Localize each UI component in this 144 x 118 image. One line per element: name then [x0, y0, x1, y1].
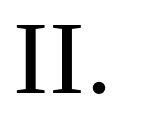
- section-numeral-heading: II.: [13, 6, 113, 110]
